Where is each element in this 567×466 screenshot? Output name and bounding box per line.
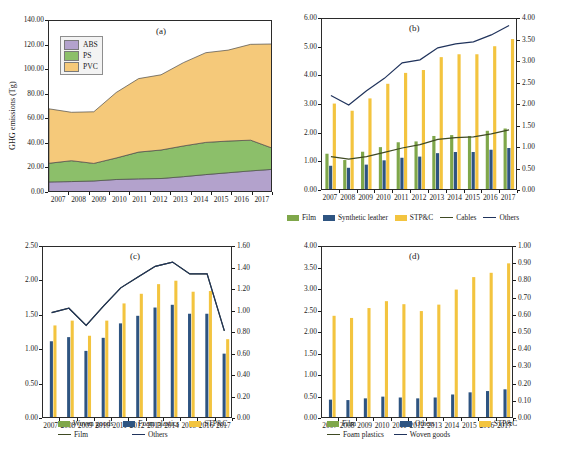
panel-d-legend-item: Others <box>400 418 435 429</box>
panel-c-legend-label: Film <box>74 430 88 439</box>
panel-d-bar-stp-c-2014 <box>455 290 458 418</box>
panel-a-x-tick-mark <box>89 192 90 195</box>
panel-c-legend-label: Others <box>148 430 168 439</box>
panel-d-bar-others-2014 <box>451 394 454 418</box>
panel-c-bar-stp-c-2013 <box>157 284 160 418</box>
panel-c-bar-stp-c-2008 <box>71 321 74 418</box>
legend-swatch-stp-c <box>395 215 407 221</box>
legend-swatch-foam-plastics <box>123 421 135 427</box>
panel-d-y-tick-label: 2.00 <box>283 328 317 336</box>
panel-b-y-tick-label: 2.00 <box>283 129 317 137</box>
panel-b-legend-item: Film <box>287 212 316 223</box>
panel-b-bar-synthetic-leather-2017 <box>507 148 510 190</box>
panel-a-y-tick-mark <box>45 143 48 144</box>
panel-a-legend-item: ABS <box>64 39 98 50</box>
panel-a-y-tick-label: 140.00 <box>10 16 44 24</box>
panel-c-y2-tick-label: 1.00 <box>237 307 271 315</box>
panel-d-y-tick-label: 3.50 <box>283 264 317 272</box>
panel-a-y-tick-label: 40.00 <box>10 139 44 147</box>
panel-c-y-tick-mark <box>39 384 42 385</box>
panel-b-bar-film-2017 <box>504 129 507 190</box>
panel-b-y-tick-label: 6.00 <box>283 14 317 22</box>
panel-c-legend-item: STP&C <box>189 418 227 429</box>
legend-swatch-film <box>287 215 299 221</box>
panel-b-line-cables <box>331 130 509 159</box>
panel-d-y2-tick-label: 0.10 <box>518 397 552 405</box>
panel-a-legend: ABSPSPVC <box>60 36 103 75</box>
panel-d-bar-stp-c-2007 <box>333 316 336 418</box>
panel-b-legend-label: Others <box>499 213 519 222</box>
panel-a-x-tick-mark <box>109 192 110 195</box>
legend-swatch-ps <box>64 51 79 61</box>
panel-d-y2-tick-mark <box>513 366 516 367</box>
legend-swatch-abs <box>64 40 79 50</box>
panel-b-bar-stp-c-2017 <box>511 39 514 190</box>
panel-d-y-tick-mark <box>318 289 321 290</box>
panel-a-y-tick-label: 120.00 <box>10 41 44 49</box>
panel-d-bar-others-2010 <box>381 397 384 418</box>
panel-b-y2-tick-label: 3.50 <box>522 36 556 44</box>
panel-b-bar-synthetic-leather-2009 <box>365 165 368 190</box>
panel-a-tag: (a) <box>156 26 166 36</box>
panel-d-chart-svg <box>322 247 513 418</box>
panel-b-bar-stp-c-2007 <box>333 104 336 190</box>
legend-line-others <box>132 434 145 435</box>
panel-b-y2-tick-mark <box>517 40 520 41</box>
panel-a: GHG emissions (Tg) 0.0020.0040.0060.0080… <box>0 0 285 225</box>
panel-b-y2-tick-mark <box>517 169 520 170</box>
panel-b-legend-label: STP&C <box>410 213 433 222</box>
panel-b-bar-film-2008 <box>343 160 346 190</box>
panel-d-bar-others-2011 <box>399 398 402 419</box>
panel-d-y2-tick-label: 0.30 <box>518 362 552 370</box>
panel-b-legend-label: Synthetic leather <box>338 213 388 222</box>
panel-d-legend-item: STP&C <box>479 418 517 429</box>
panel-c-plot-box <box>42 246 232 418</box>
panel-c-y2-tick-label: 0.40 <box>237 371 271 379</box>
panel-d-y-tick-label: 0.00 <box>283 414 317 422</box>
panel-d-bar-stp-c-2013 <box>437 305 440 418</box>
panel-d-bar-others-2009 <box>364 398 367 418</box>
panel-a-y-tick-label: 0.00 <box>10 188 44 196</box>
panel-d-y2-tick-mark <box>513 263 516 264</box>
panel-b-bar-stp-c-2011 <box>404 73 407 190</box>
panel-c-y2-tick-label: 0.20 <box>237 393 271 401</box>
panel-d-y2-tick-label: 0.40 <box>518 345 552 353</box>
panel-b-legend-item: Others <box>483 212 519 223</box>
panel-c-bar-stp-c-2007 <box>53 325 56 418</box>
panel-d-y2-tick-mark <box>513 332 516 333</box>
panel-b-y2-tick-mark <box>517 18 520 19</box>
panel-b-legend-label: Cables <box>456 213 476 222</box>
panel-d-legend-label: Others <box>415 419 435 428</box>
panel-d-y-tick-mark <box>318 397 321 398</box>
panel-b-y-tick-mark <box>318 47 321 48</box>
panel-a-y-tick-label: 60.00 <box>10 114 44 122</box>
panel-d-legend-item: Film <box>327 418 356 429</box>
panel-d-y2-tick-label: 0.20 <box>518 380 552 388</box>
panel-c-bar-stp-c-2015 <box>192 292 195 418</box>
panel-d-y2-tick-label: 0.60 <box>518 311 552 319</box>
panel-b-y-tick-mark <box>318 133 321 134</box>
panel-c-bar-foam-plastics-2011 <box>119 323 122 418</box>
panel-b-y-tick-mark <box>318 75 321 76</box>
panel-b-bar-synthetic-leather-2014 <box>454 152 457 190</box>
legend-line-foam-plastics <box>327 434 340 435</box>
panel-d-legend-row: FilmOthersSTP&C <box>327 418 561 429</box>
panel-d-y2-tick-mark <box>513 349 516 350</box>
panel-b: 0.001.002.003.004.005.006.000.000.501.00… <box>283 0 567 225</box>
panel-d-bar-stp-c-2016 <box>490 273 493 418</box>
panel-c-bar-foam-plastics-2008 <box>67 337 70 418</box>
panel-a-x-tick-mark <box>68 192 69 195</box>
panel-c-y-tick-label: 0.50 <box>4 380 38 388</box>
panel-b-bar-synthetic-leather-2015 <box>472 152 475 190</box>
panel-c-y2-tick-label: 0.00 <box>237 414 271 422</box>
panel-d-y2-tick-mark <box>513 401 516 402</box>
panel-c-bar-stp-c-2014 <box>174 281 177 418</box>
panel-c-y-tick-mark <box>39 349 42 350</box>
panel-b-bar-stp-c-2010 <box>386 84 389 190</box>
panel-c-bar-foam-plastics-2016 <box>205 314 208 418</box>
panel-a-legend-label: ABS <box>83 40 98 49</box>
legend-swatch-film <box>327 421 339 427</box>
panel-b-legend-label: Film <box>302 213 316 222</box>
panel-b-bar-film-2014 <box>450 135 453 190</box>
panel-b-legend-item: STP&C <box>395 212 433 223</box>
